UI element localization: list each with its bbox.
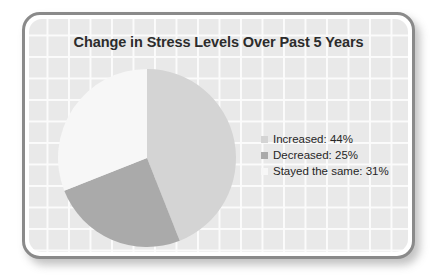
legend-label-stayed-the-same: Stayed the same: 31% — [273, 165, 389, 177]
chart-plot-area: Change in Stress Levels Over Past 5 Year… — [29, 19, 408, 252]
chart-legend: Increased: 44% Decreased: 25% Stayed the… — [261, 131, 408, 179]
legend-swatch-stayed-the-same — [261, 168, 268, 175]
legend-label-decreased: Decreased: 25% — [273, 149, 358, 161]
legend-label-increased: Increased: 44% — [273, 133, 353, 145]
legend-item-decreased[interactable]: Decreased: 25% — [261, 147, 408, 163]
pie-slice-group — [58, 69, 236, 247]
chart-card: Change in Stress Levels Over Past 5 Year… — [22, 12, 415, 259]
legend-swatch-decreased — [261, 152, 268, 159]
legend-swatch-increased — [261, 136, 268, 143]
legend-item-stayed-the-same[interactable]: Stayed the same: 31% — [261, 163, 408, 179]
legend-item-increased[interactable]: Increased: 44% — [261, 131, 408, 147]
